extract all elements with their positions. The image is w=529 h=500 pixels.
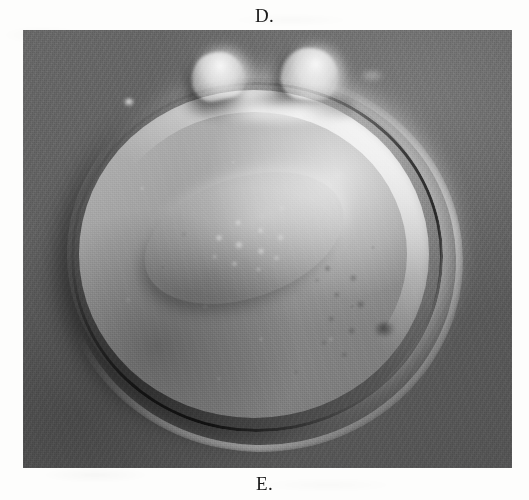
vacuole [375, 322, 395, 338]
panel-label-d: D. [0, 6, 529, 25]
debris-speck [123, 98, 135, 107]
polar-body-ridge [189, 92, 371, 126]
oocyte-micrograph [23, 30, 512, 468]
debris-speck [359, 70, 385, 82]
figure-plate: D. E. [0, 0, 529, 500]
panel-label-e: E. [0, 474, 529, 493]
